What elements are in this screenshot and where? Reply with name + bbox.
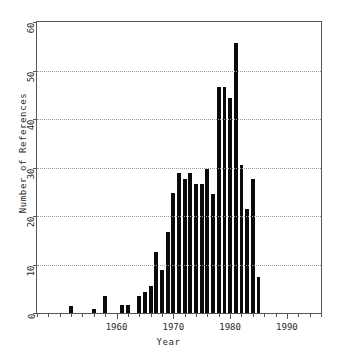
bar bbox=[217, 87, 221, 313]
x-tick-mark-major bbox=[117, 313, 118, 319]
x-tick-label: 1990 bbox=[276, 322, 298, 332]
x-tick-mark-minor bbox=[82, 313, 83, 317]
x-tick-mark-minor bbox=[219, 313, 220, 317]
bar bbox=[251, 179, 255, 313]
x-tick-mark-major bbox=[230, 313, 231, 319]
bar bbox=[234, 43, 238, 313]
bar bbox=[188, 173, 192, 313]
x-tick-mark-minor bbox=[310, 313, 311, 317]
bar bbox=[171, 193, 175, 313]
x-tick-mark-minor bbox=[207, 313, 208, 317]
y-tick-label: 60 bbox=[28, 23, 37, 34]
bar bbox=[245, 209, 249, 313]
y-tick-label: 40 bbox=[28, 120, 37, 131]
bar bbox=[149, 286, 153, 313]
bar bbox=[143, 292, 147, 313]
x-tick-mark-minor bbox=[139, 313, 140, 317]
bar bbox=[126, 305, 130, 313]
x-tick-mark-minor bbox=[196, 313, 197, 317]
x-tick-mark-minor bbox=[321, 313, 322, 317]
x-tick-mark-minor bbox=[185, 313, 186, 317]
gridline bbox=[37, 265, 321, 266]
x-tick-label: 1970 bbox=[162, 322, 184, 332]
bar bbox=[211, 194, 215, 313]
bar bbox=[223, 87, 227, 313]
x-tick-mark-major bbox=[173, 313, 174, 319]
x-tick-mark-minor bbox=[48, 313, 49, 317]
x-tick-mark-major bbox=[287, 313, 288, 319]
y-tick-label: 0 bbox=[28, 314, 37, 319]
x-tick-label: 1980 bbox=[219, 322, 241, 332]
x-tick-label: 1960 bbox=[106, 322, 128, 332]
gridline bbox=[37, 216, 321, 217]
bar bbox=[228, 98, 232, 313]
bar bbox=[240, 165, 244, 313]
x-tick-mark-minor bbox=[60, 313, 61, 317]
x-tick-mark-minor bbox=[264, 313, 265, 317]
y-tick-label: 30 bbox=[28, 168, 37, 179]
bar bbox=[154, 252, 158, 313]
x-tick-mark-minor bbox=[37, 313, 38, 317]
gridline bbox=[37, 168, 321, 169]
bar bbox=[257, 277, 261, 313]
bar bbox=[120, 305, 124, 313]
x-tick-mark-minor bbox=[253, 313, 254, 317]
x-tick-mark-minor bbox=[162, 313, 163, 317]
y-axis-title: Number of References bbox=[18, 73, 28, 233]
y-tick-label: 50 bbox=[28, 71, 37, 82]
bar bbox=[200, 184, 204, 313]
bar bbox=[205, 169, 209, 313]
x-tick-mark-minor bbox=[298, 313, 299, 317]
y-tick-label: 10 bbox=[28, 265, 37, 276]
x-tick-mark-minor bbox=[128, 313, 129, 317]
x-tick-mark-minor bbox=[276, 313, 277, 317]
chart-figure: Number of References 0102030405060 19601… bbox=[0, 0, 337, 358]
bar bbox=[160, 270, 164, 313]
bar bbox=[183, 179, 187, 313]
bar bbox=[103, 296, 107, 313]
x-tick-mark-minor bbox=[241, 313, 242, 317]
plot-area: 0102030405060 1960197019801990 bbox=[36, 21, 322, 314]
y-tick-label: 20 bbox=[28, 217, 37, 228]
bar bbox=[166, 232, 170, 313]
gridline bbox=[37, 119, 321, 120]
x-tick-mark-minor bbox=[105, 313, 106, 317]
x-tick-mark-minor bbox=[71, 313, 72, 317]
gridline bbox=[37, 71, 321, 72]
bar bbox=[177, 173, 181, 313]
x-axis-title: Year bbox=[0, 337, 337, 347]
x-tick-mark-minor bbox=[151, 313, 152, 317]
bar bbox=[137, 296, 141, 313]
x-tick-mark-minor bbox=[94, 313, 95, 317]
bar bbox=[194, 184, 198, 313]
bar bbox=[69, 306, 73, 313]
